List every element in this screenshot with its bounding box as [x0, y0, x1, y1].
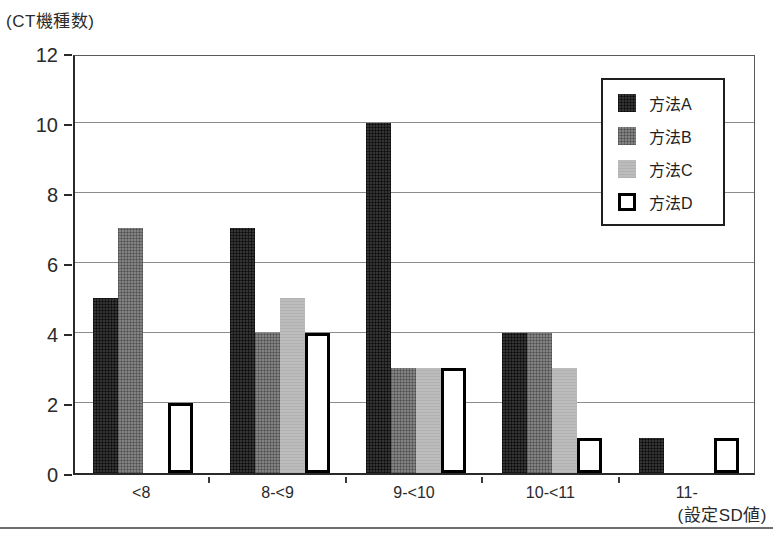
y-tick-mark-0 — [64, 474, 72, 476]
y-tick-label-10: 10 — [14, 114, 58, 136]
legend-label-方法D: 方法D — [649, 190, 693, 214]
chart-figure: (CT機種数) 024681012 <88-<99-<1010-<1111- 方… — [0, 0, 773, 539]
bar-方法D-10-<11 — [577, 438, 602, 473]
page-divider-rule — [0, 527, 773, 529]
y-tick-label-12: 12 — [14, 44, 58, 66]
bar-方法C-8-<9 — [280, 298, 305, 473]
y-tick-label-6: 6 — [14, 254, 58, 276]
bar-方法B-8-<9 — [255, 333, 280, 473]
y-tick-mark-10 — [64, 124, 72, 126]
x-tick-label-11-: 11- — [627, 484, 747, 502]
legend-swatch-方法B — [618, 127, 636, 145]
y-tick-mark-6 — [64, 264, 72, 266]
bar-方法A-8-<9 — [230, 228, 255, 473]
y-tick-label-4: 4 — [14, 324, 58, 346]
x-tick-mark-4 — [618, 477, 620, 483]
x-tick-mark-2 — [345, 477, 347, 483]
y-tick-label-8: 8 — [14, 184, 58, 206]
bar-方法A-11- — [639, 438, 664, 473]
legend-label-方法A: 方法A — [649, 91, 692, 115]
y-tick-mark-8 — [64, 194, 72, 196]
legend-item-方法B: 方法B — [618, 124, 723, 148]
legend: 方法A方法B方法C方法D — [601, 78, 725, 226]
x-tick-mark-3 — [481, 477, 483, 483]
bar-方法D-8-<9 — [305, 333, 330, 473]
legend-item-方法D: 方法D — [618, 190, 723, 214]
legend-label-方法C: 方法C — [649, 157, 693, 181]
x-tick-label-9-<10: 9-<10 — [354, 484, 474, 502]
bar-方法A-<8 — [93, 298, 118, 473]
bar-方法D-11- — [714, 438, 739, 473]
x-tick-label-<8: <8 — [81, 484, 201, 502]
bar-方法D-<8 — [168, 403, 193, 473]
y-tick-mark-2 — [64, 404, 72, 406]
y-tick-label-2: 2 — [14, 394, 58, 416]
x-axis-title: (設定SD値) — [678, 501, 767, 526]
bar-方法B-10-<11 — [527, 333, 552, 473]
legend-swatch-方法D — [618, 193, 636, 211]
bar-方法A-9-<10 — [366, 123, 391, 473]
y-tick-mark-4 — [64, 334, 72, 336]
legend-label-方法B: 方法B — [649, 124, 692, 148]
bar-方法B-9-<10 — [391, 368, 416, 473]
gridline-y-6 — [75, 262, 754, 263]
y-tick-mark-12 — [64, 54, 72, 56]
x-tick-label-8-<9: 8-<9 — [218, 484, 338, 502]
bar-方法C-10-<11 — [552, 368, 577, 473]
legend-item-方法A: 方法A — [618, 91, 723, 115]
x-tick-label-10-<11: 10-<11 — [490, 484, 610, 502]
legend-swatch-方法A — [618, 94, 636, 112]
legend-swatch-方法C — [618, 160, 636, 178]
bar-方法D-9-<10 — [441, 368, 466, 473]
bar-方法C-9-<10 — [416, 368, 441, 473]
bar-方法A-10-<11 — [502, 333, 527, 473]
y-axis-title: (CT機種数) — [6, 7, 94, 32]
bar-方法B-<8 — [118, 228, 143, 473]
legend-item-方法C: 方法C — [618, 157, 723, 181]
y-tick-label-0: 0 — [14, 464, 58, 486]
gridline-y-4 — [75, 332, 754, 333]
x-tick-mark-1 — [208, 477, 210, 483]
